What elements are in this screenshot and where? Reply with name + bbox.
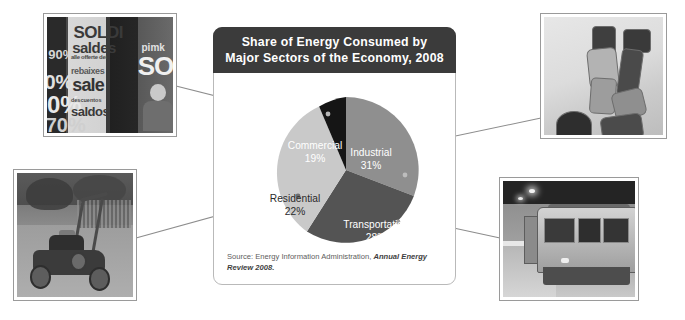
train-headlight [561,258,569,263]
photo-commercial-sector: 90% 0% 0% 70% SOLDI saldes alle offerte … [44,14,176,136]
photo-transportation-sector: Subway train stopped at an underground s… [500,178,638,300]
sign-text-sale: sale [72,77,104,93]
photo-commercial-image: 90% 0% 0% 70% SOLDI saldes alle offerte … [47,17,173,133]
sign-text-small-line-2: descuentos [71,98,102,103]
train-lower-skirt [543,267,630,286]
sign-text-big-so: SO [138,55,173,78]
panel-title-line-2: Major Sectors of the Economy, 2008 [225,50,444,66]
sign-text-saldes: saldes [72,41,116,55]
tree-shape-left [26,178,72,210]
train-window-2 [578,218,601,243]
tunnel-ceiling [503,181,635,204]
shopper-body-shape [143,101,173,131]
sign-text-soldi: SOLDI [73,25,122,40]
connector-dot-commercial [326,112,331,117]
train-window-3 [603,218,629,243]
mower-wheel-front-left [30,265,51,289]
chart-source-prefix: Source: Energy Information Administratio… [227,252,373,261]
fence-shape [77,200,130,227]
chart-source-note: Source: Energy Information Administratio… [227,251,439,273]
panel-title-header: Share of Energy Consumed by Major Sector… [213,27,456,73]
robot-arm-segment-g [556,111,592,135]
photo-residential-sector: Push lawn mower on a grass lawn in front… [14,170,136,300]
sign-text-rebaixes: rebaixes [71,67,104,75]
panel-title-line-1: Share of Energy Consumed by [242,34,428,50]
connector-dot-transportation [396,220,401,225]
photo-residential-image [17,173,133,297]
connector-dot-industrial [403,173,408,178]
sign-text-pimk: pimk [142,43,165,52]
pie-chart [272,96,420,244]
photo-transportation-image [503,181,635,297]
photo-industrial-image [544,17,663,135]
sign-text-0-percent-a: 0% [47,73,73,91]
train-window-1 [544,218,575,243]
sign-text-small-line-1: alle offerte dei [71,55,107,60]
photo-industrial-sector: Industrial robotic arms on a factory ass… [541,14,666,138]
sign-text-saldos: saldos [71,106,109,118]
connector-dot-residential [296,194,301,199]
energy-share-panel: Share of Energy Consumed by Major Sector… [213,27,456,285]
ceiling-lamp-2 [518,197,523,200]
